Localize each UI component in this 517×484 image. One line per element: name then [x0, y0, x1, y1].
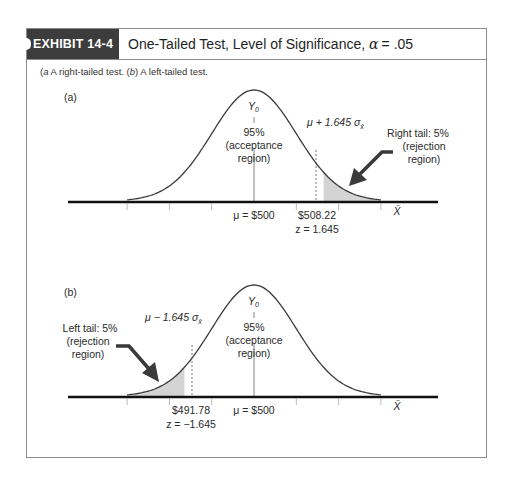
panel-b-label: (b) — [64, 286, 77, 298]
mean-label-b: μ = $500 — [233, 404, 275, 416]
mean-label-a: μ = $500 — [233, 209, 275, 221]
critical-formula-b: μ − 1.645 σx̄ — [144, 311, 202, 325]
tail-label-line3-b: region) — [72, 348, 105, 360]
acceptance-line1-a: (acceptance — [225, 139, 282, 151]
z-label-a: z = 1.645 — [295, 223, 339, 235]
acceptance-pct-a: 95% — [243, 126, 264, 138]
tail-label-line1-b: Left tail: 5% — [63, 322, 118, 334]
y0-label-a: Y0 — [248, 100, 259, 113]
arrow-icon-left-tail — [116, 346, 159, 382]
y0-label-b: Y0 — [248, 295, 259, 308]
critical-formula-a: μ + 1.645 σx̄ — [306, 116, 364, 130]
tail-label-line1-a: Right tail: 5% — [387, 127, 449, 139]
tail-label-line3-a: region) — [408, 153, 441, 165]
acceptance-pct-b: 95% — [243, 321, 264, 333]
acceptance-line2-a: region) — [238, 152, 271, 164]
arrow-icon-right-tail — [349, 152, 393, 186]
x-bar-label-a: X̄ — [392, 205, 401, 217]
critical-value-label-b: $491.78 — [172, 404, 210, 416]
x-bar-label-b: X̄ — [392, 400, 401, 412]
panel-a-label: (a) — [64, 91, 77, 103]
acceptance-line1-b: (acceptance — [225, 334, 282, 346]
z-label-b: z = −1.645 — [166, 418, 216, 430]
chart-svg: (a) Y0 95% (acceptance region) μ + 1.645… — [0, 0, 517, 484]
tail-label-line2-a: (rejection — [402, 140, 445, 152]
panel-b: (b) Y0 95% (acceptance region) μ − 1.645… — [63, 285, 438, 430]
tail-label-line2-b: (rejection — [66, 335, 109, 347]
acceptance-line2-b: region) — [238, 347, 271, 359]
critical-value-label-a: $508.22 — [298, 209, 336, 221]
panel-a: (a) Y0 95% (acceptance region) μ + 1.645… — [64, 90, 449, 235]
